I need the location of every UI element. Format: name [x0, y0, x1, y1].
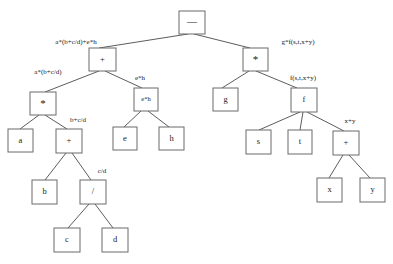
tree-node[interactable]: t	[288, 130, 312, 154]
tree-edge	[99, 34, 188, 48]
tree-node[interactable]: b	[32, 180, 57, 204]
tree-node[interactable]: s	[246, 130, 271, 154]
node-label: —	[186, 16, 198, 27]
tree-edge	[329, 155, 343, 178]
edge-annotation: a*(b+c/d)+e*h	[55, 38, 97, 46]
tree-node[interactable]: a	[8, 129, 33, 152]
tree-node[interactable]: h	[159, 127, 184, 150]
node-label: b	[42, 186, 46, 196]
edge-annotation: e*h	[135, 74, 146, 82]
nodes-layer: —+**e*hgfa+ehst+b/xycd	[8, 11, 385, 252]
tree-edge	[68, 204, 89, 228]
tree-node[interactable]: /	[80, 180, 106, 204]
tree-node[interactable]: e	[113, 127, 137, 150]
tree-node[interactable]: g	[213, 88, 238, 111]
tree-node[interactable]: +	[89, 48, 116, 71]
node-label: *	[253, 53, 259, 65]
edge-annotation: f(s,t,x+y)	[290, 74, 317, 82]
tree-edge	[20, 115, 39, 129]
node-label: +	[67, 135, 72, 145]
tree-edge	[95, 204, 113, 228]
tree-edge	[259, 112, 300, 130]
node-label: c	[65, 234, 69, 244]
edge-annotation: x+y	[345, 117, 356, 125]
tree-edge	[349, 155, 370, 178]
tree-canvas: —+**e*hgfa+ehst+b/xycd a*(b+c/d)+e*hg*f(…	[0, 0, 393, 264]
tree-edge	[45, 153, 66, 180]
tree-node[interactable]: *	[30, 92, 56, 115]
tree-node[interactable]: *	[243, 48, 268, 71]
node-label: *	[40, 97, 46, 109]
tree-node[interactable]: —	[179, 11, 205, 34]
node-label: a	[19, 135, 23, 145]
edge-annotation: b+c/d	[70, 116, 86, 124]
edge-annotation: a*(b+c/d)	[34, 68, 62, 76]
tree-edge	[222, 71, 249, 88]
tree-edge	[72, 153, 91, 180]
edge-annotation: g*f(s,t,x+y)	[281, 38, 315, 46]
tree-node[interactable]: c	[54, 228, 80, 252]
tree-edge	[45, 115, 67, 129]
tree-edge	[300, 112, 303, 130]
tree-node[interactable]: d	[102, 228, 128, 252]
tree-node[interactable]: x	[317, 178, 342, 202]
node-label: e*h	[141, 95, 151, 102]
node-label: +	[100, 54, 105, 64]
tree-edge	[307, 112, 344, 131]
edge-annotation: c/d	[98, 167, 107, 175]
tree-node[interactable]: +	[333, 131, 359, 155]
tree-node[interactable]: e*h	[134, 88, 158, 111]
node-label: f	[303, 94, 306, 104]
node-label: +	[344, 137, 349, 147]
tree-node[interactable]: +	[56, 129, 82, 153]
tree-edge	[124, 111, 141, 127]
expression-tree-diagram: —+**e*hgfa+ehst+b/xycd a*(b+c/d)+e*hg*f(…	[0, 0, 393, 264]
node-label: e	[123, 133, 127, 143]
tree-edge	[194, 34, 250, 48]
tree-node[interactable]: f	[291, 88, 317, 112]
node-label: s	[257, 136, 260, 146]
tree-edge	[148, 111, 169, 127]
tree-node[interactable]: y	[360, 178, 385, 202]
